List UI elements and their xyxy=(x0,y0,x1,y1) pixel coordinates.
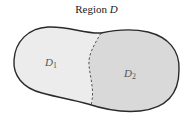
region-diagram: D1 D2 xyxy=(0,0,193,129)
subregion-d2 xyxy=(89,0,193,129)
